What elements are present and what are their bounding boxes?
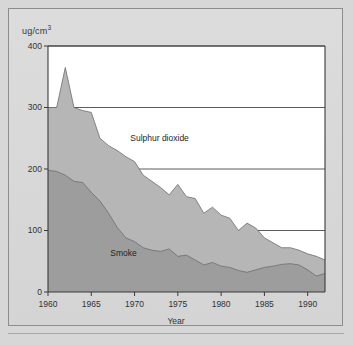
- y-tick-label-300: 300: [16, 102, 42, 112]
- x-tick-label-1990: 1990: [291, 299, 325, 309]
- series-label-sulphur-dioxide: Sulphur dioxide: [130, 133, 189, 143]
- y-tick-label-400: 400: [16, 41, 42, 51]
- x-tick-label-1980: 1980: [204, 299, 238, 309]
- x-tick-label-1985: 1985: [247, 299, 281, 309]
- x-tick-label-1975: 1975: [161, 299, 195, 309]
- x-tick-label-1965: 1965: [74, 299, 108, 309]
- chart-figure: ug/cm3 0100200300400 1960196519701975198…: [0, 0, 353, 345]
- area-chart-plot: [0, 0, 353, 345]
- x-axis-title: Year: [156, 316, 196, 326]
- x-tick-label-1970: 1970: [118, 299, 152, 309]
- y-tick-label-200: 200: [16, 164, 42, 174]
- y-tick-label-100: 100: [16, 225, 42, 235]
- series-label-smoke: Smoke: [110, 248, 136, 258]
- x-tick-label-1960: 1960: [31, 299, 65, 309]
- y-tick-label-0: 0: [16, 287, 42, 297]
